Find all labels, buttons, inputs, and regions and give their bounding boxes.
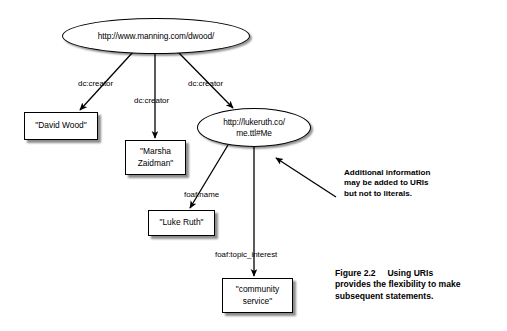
node-manning-uri[interactable]: http://www.manning.com/dwood/	[62, 18, 250, 54]
node-literal-marsha-zaidman-line2: Zaidman"	[138, 158, 174, 170]
figure-caption: Figure 2.2 Using URIs provides the flexi…	[335, 268, 503, 302]
rdf-graph-figure: http://www.manning.com/dwood/ http://luk…	[0, 0, 507, 331]
edge-label-foaf-name: foaf:name	[184, 190, 219, 199]
annotation-callout: Additional information may be added to U…	[344, 168, 430, 199]
figure-caption-first-line: Figure 2.2 Using URIs	[335, 268, 503, 279]
node-literal-community-service-line1: "community	[236, 284, 279, 296]
edge-label-foaf-topic-interest: foaf:topic_interest	[215, 250, 277, 259]
edge-label-creator-david: dc:creator	[78, 79, 113, 88]
node-manning-uri-label: http://www.manning.com/dwood/	[98, 31, 215, 42]
annotation-line-3: but not to literals.	[344, 189, 430, 199]
edge-label-creator-lukeruth: dc:creator	[188, 79, 223, 88]
node-literal-community-service-line2: service"	[243, 296, 273, 308]
node-literal-luke-ruth-label: "Luke Ruth"	[159, 217, 203, 229]
node-lukeruth-uri-line1: http://lukeruth.co/	[223, 117, 285, 128]
annotation-leader-line	[276, 158, 336, 197]
edge-label-creator-marsha: dc:creator	[134, 96, 169, 105]
node-literal-community-service[interactable]: "community service"	[222, 278, 293, 313]
node-lukeruth-uri[interactable]: http://lukeruth.co/ me.ttl#Me	[197, 108, 311, 147]
figure-caption-line-3: subsequent statements.	[335, 291, 503, 302]
figure-caption-label: Figure 2.2	[335, 268, 376, 278]
node-literal-marsha-zaidman-line1: "Marsha	[140, 146, 171, 158]
figure-caption-line-2: provides the flexibility to make	[335, 279, 503, 290]
node-literal-marsha-zaidman[interactable]: "Marsha Zaidman"	[125, 140, 186, 175]
node-lukeruth-uri-line2: me.ttl#Me	[236, 128, 272, 139]
node-literal-luke-ruth[interactable]: "Luke Ruth"	[148, 210, 215, 236]
node-literal-david-wood-label: "David Wood"	[35, 120, 86, 132]
annotation-line-1: Additional information	[344, 168, 430, 178]
node-literal-david-wood[interactable]: "David Wood"	[24, 112, 98, 140]
annotation-line-2: may be added to URIs	[344, 178, 430, 188]
figure-caption-line-1: Using URIs	[387, 268, 433, 278]
